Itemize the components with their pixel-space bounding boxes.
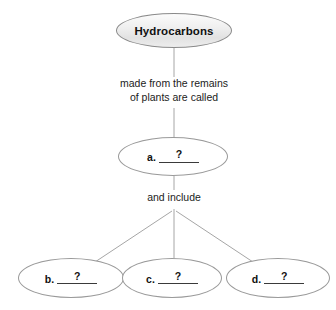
blank-a-row: a. ? [147, 148, 199, 162]
blank-d-row: d. ? [252, 270, 304, 284]
blank-c-row: c. ? [146, 270, 198, 284]
diagram-canvas: Hydrocarbons made from the remains of pl… [0, 0, 336, 310]
connector-branch-left [95, 211, 172, 262]
blank-a-letter: a. [147, 152, 156, 163]
blank-a-slot[interactable]: ? [159, 148, 199, 162]
blank-c-slot[interactable]: ? [158, 270, 198, 284]
node-blank-c[interactable]: c. ? [122, 258, 222, 298]
node-blank-a[interactable]: a. ? [118, 137, 228, 176]
node-hydrocarbons-label: Hydrocarbons [134, 25, 213, 37]
caption-and-include: and include [114, 190, 234, 204]
blank-d-slot[interactable]: ? [264, 270, 304, 284]
node-blank-d[interactable]: d. ? [226, 258, 330, 298]
blank-b-letter: b. [45, 274, 54, 285]
caption-made-from-remains: made from the remains of plants are call… [88, 76, 260, 104]
blank-b-row: b. ? [45, 270, 97, 284]
blank-d-letter: d. [252, 274, 261, 285]
node-blank-b[interactable]: b. ? [18, 258, 124, 298]
connector-branch-right [176, 211, 253, 262]
node-hydrocarbons: Hydrocarbons [116, 13, 232, 48]
blank-b-slot[interactable]: ? [57, 270, 97, 284]
blank-c-letter: c. [146, 274, 155, 285]
